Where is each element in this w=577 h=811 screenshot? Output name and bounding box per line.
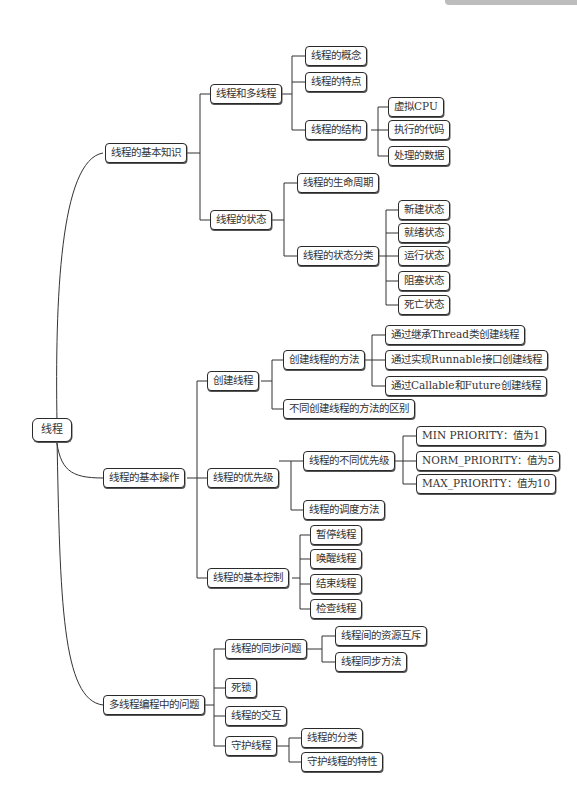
node-thread-classification[interactable]: 线程的分类 [301, 728, 363, 748]
node-lifecycle[interactable]: 线程的生命周期 [297, 173, 379, 193]
node-processed-data[interactable]: 处理的数据 [388, 146, 450, 166]
node-label: 不同创建线程的方法的区别 [289, 402, 409, 414]
node-state-dead[interactable]: 死亡状态 [398, 295, 450, 315]
node-executed-code[interactable]: 执行的代码 [388, 120, 450, 140]
node-label: 线程的调度方法 [309, 503, 379, 515]
node-create-thread[interactable]: 创建线程 [207, 371, 259, 391]
node-thread-concept[interactable]: 线程的概念 [305, 46, 367, 66]
node-label: 运行状态 [404, 249, 444, 261]
node-label: 死锁 [231, 681, 251, 693]
root-label: 线程 [41, 423, 63, 436]
node-min-priority[interactable]: MIN PRIORITY：值为1 [416, 426, 546, 446]
node-label: 线程的基本知识 [111, 146, 181, 158]
node-label: 守护线程的特性 [307, 755, 377, 767]
node-scheduling[interactable]: 线程的调度方法 [303, 500, 385, 520]
node-check-thread[interactable]: 检查线程 [310, 599, 362, 619]
node-state-running[interactable]: 运行状态 [398, 246, 450, 266]
node-label: NORM_PRIORITY：值为5 [422, 454, 554, 466]
node-label: 线程的优先级 [213, 471, 273, 483]
node-label: 线程的基本操作 [109, 471, 179, 483]
node-deadlock[interactable]: 死锁 [225, 678, 257, 698]
node-state-blocked[interactable]: 阻塞状态 [398, 271, 450, 291]
node-label: 线程的交互 [231, 709, 281, 721]
node-basic-control[interactable]: 线程的基本控制 [207, 568, 289, 588]
node-state-classification[interactable]: 线程的状态分类 [297, 246, 379, 266]
node-wake-thread[interactable]: 唤醒线程 [310, 549, 362, 569]
node-state-new[interactable]: 新建状态 [398, 200, 450, 220]
node-sync-problem[interactable]: 线程的同步问题 [225, 639, 307, 659]
node-daemon-features[interactable]: 守护线程的特性 [301, 752, 383, 772]
node-label: 多线程编程中的问题 [109, 698, 199, 710]
node-label: 线程的状态 [216, 213, 266, 225]
node-label: 唤醒线程 [316, 552, 356, 564]
node-multithread-problems[interactable]: 多线程编程中的问题 [103, 695, 205, 715]
node-label: 线程的不同优先级 [309, 454, 389, 466]
node-sync-methods[interactable]: 线程同步方法 [335, 652, 407, 672]
node-label: 线程同步方法 [341, 655, 401, 667]
node-label: MAX_PRIORITY：值为10 [422, 477, 550, 489]
node-method-differences[interactable]: 不同创建线程的方法的区别 [283, 399, 415, 419]
node-label: 线程的结构 [311, 123, 361, 135]
node-label: 创建线程的方法 [289, 353, 359, 365]
node-label: 处理的数据 [394, 149, 444, 161]
node-label: 线程间的资源互斥 [341, 629, 421, 641]
node-label: 就绪状态 [404, 226, 444, 238]
node-resource-mutex[interactable]: 线程间的资源互斥 [335, 626, 427, 646]
node-create-methods[interactable]: 创建线程的方法 [283, 350, 365, 370]
node-extend-thread[interactable]: 通过继承Thread类创建线程 [385, 325, 525, 345]
node-basic-operations[interactable]: 线程的基本操作 [103, 468, 185, 488]
node-interaction[interactable]: 线程的交互 [225, 706, 287, 726]
node-max-priority[interactable]: MAX_PRIORITY：值为10 [416, 474, 556, 494]
root-node[interactable]: 线程 [32, 418, 72, 442]
node-label: 新建状态 [404, 203, 444, 215]
node-label: 线程的特点 [311, 75, 361, 87]
node-label: 死亡状态 [404, 298, 444, 310]
node-label: 线程和多线程 [216, 87, 276, 99]
node-norm-priority[interactable]: NORM_PRIORITY：值为5 [416, 451, 560, 471]
node-label: MIN PRIORITY：值为1 [422, 429, 540, 441]
node-thread-structure[interactable]: 线程的结构 [305, 120, 367, 140]
node-state-ready[interactable]: 就绪状态 [398, 223, 450, 243]
node-daemon-thread[interactable]: 守护线程 [225, 736, 277, 756]
node-thread-basics[interactable]: 线程的基本知识 [105, 143, 187, 163]
node-priority[interactable]: 线程的优先级 [207, 468, 279, 488]
node-callable-future[interactable]: 通过Callable和Future创建线程 [385, 376, 547, 396]
node-label: 执行的代码 [394, 123, 444, 135]
node-label: 检查线程 [316, 602, 356, 614]
node-label: 守护线程 [231, 739, 271, 751]
node-thread-state[interactable]: 线程的状态 [210, 210, 272, 230]
node-label: 通过实现Runnable接口创建线程 [391, 353, 542, 365]
node-implement-runnable[interactable]: 通过实现Runnable接口创建线程 [385, 350, 548, 370]
node-label: 线程的基本控制 [213, 571, 283, 583]
node-label: 虚拟CPU [394, 100, 438, 112]
node-end-thread[interactable]: 结束线程 [310, 574, 362, 594]
node-label: 线程的状态分类 [303, 249, 373, 261]
node-label: 暂停线程 [316, 528, 356, 540]
node-label: 创建线程 [213, 374, 253, 386]
node-thread-and-multithread[interactable]: 线程和多线程 [210, 84, 282, 104]
node-label: 结束线程 [316, 577, 356, 589]
node-label: 阻塞状态 [404, 274, 444, 286]
node-different-priorities[interactable]: 线程的不同优先级 [303, 451, 395, 471]
node-label: 线程的分类 [307, 731, 357, 743]
node-label: 通过Callable和Future创建线程 [391, 379, 541, 391]
node-label: 线程的同步问题 [231, 642, 301, 654]
node-virtual-cpu[interactable]: 虚拟CPU [388, 97, 444, 117]
node-label: 线程的生命周期 [303, 176, 373, 188]
node-label: 通过继承Thread类创建线程 [391, 328, 519, 340]
node-pause-thread[interactable]: 暂停线程 [310, 525, 362, 545]
node-label: 线程的概念 [311, 49, 361, 61]
node-thread-features[interactable]: 线程的特点 [305, 72, 367, 92]
